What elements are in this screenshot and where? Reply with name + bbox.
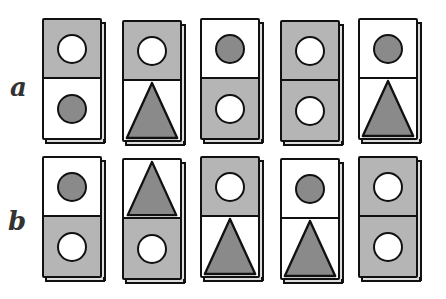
domino-half-bottom (282, 219, 338, 278)
domino-face (122, 158, 182, 280)
domino-a-2 (122, 20, 186, 146)
dark-circle-icon (295, 174, 325, 204)
domino-a-5 (358, 18, 422, 144)
domino-half-bottom (282, 81, 338, 140)
domino-half-bottom (44, 79, 100, 138)
domino-half-bottom (202, 217, 258, 276)
domino-face (42, 156, 102, 278)
dark-circle-icon (215, 34, 245, 64)
domino-a-1 (42, 18, 106, 144)
domino-b-2 (122, 158, 186, 284)
domino-half-top (124, 22, 180, 81)
domino-a-4 (280, 20, 344, 146)
domino-face (280, 158, 340, 280)
domino-face (42, 18, 102, 140)
white-circle-icon (295, 96, 325, 126)
white-circle-icon (215, 172, 245, 202)
white-circle-icon (57, 232, 87, 262)
domino-b-4 (280, 158, 344, 284)
domino-half-top (282, 22, 338, 81)
domino-b-5 (358, 156, 422, 282)
white-circle-icon (137, 36, 167, 66)
domino-half-top (202, 20, 258, 79)
triangle-icon (202, 217, 258, 276)
white-circle-icon (215, 94, 245, 124)
row-label-a: a (10, 72, 27, 102)
domino-half-bottom (202, 79, 258, 138)
domino-b-3 (200, 156, 264, 282)
domino-half-top (360, 20, 416, 79)
domino-half-bottom (124, 219, 180, 278)
domino-half-bottom (44, 217, 100, 276)
white-circle-icon (295, 36, 325, 66)
triangle-icon (124, 160, 180, 217)
domino-half-bottom (360, 79, 416, 138)
domino-half-top (44, 20, 100, 79)
domino-half-bottom (124, 81, 180, 140)
row-label-b: b (8, 206, 26, 236)
white-circle-icon (137, 234, 167, 264)
domino-face (200, 18, 260, 140)
domino-half-top (44, 158, 100, 217)
domino-half-top (360, 158, 416, 217)
dark-circle-icon (57, 172, 87, 202)
triangle-icon (124, 81, 180, 140)
white-circle-icon (57, 34, 87, 64)
domino-a-3 (200, 18, 264, 144)
white-circle-icon (373, 232, 403, 262)
dark-circle-icon (57, 94, 87, 124)
domino-half-top (124, 160, 180, 219)
domino-half-top (202, 158, 258, 217)
domino-face (358, 156, 418, 278)
domino-face (280, 20, 340, 142)
dark-circle-icon (373, 34, 403, 64)
domino-b-1 (42, 156, 106, 282)
domino-face (358, 18, 418, 140)
triangle-icon (360, 79, 416, 138)
domino-half-bottom (360, 217, 416, 276)
domino-half-top (282, 160, 338, 219)
domino-face (200, 156, 260, 278)
triangle-icon (282, 219, 338, 278)
domino-face (122, 20, 182, 142)
white-circle-icon (373, 172, 403, 202)
